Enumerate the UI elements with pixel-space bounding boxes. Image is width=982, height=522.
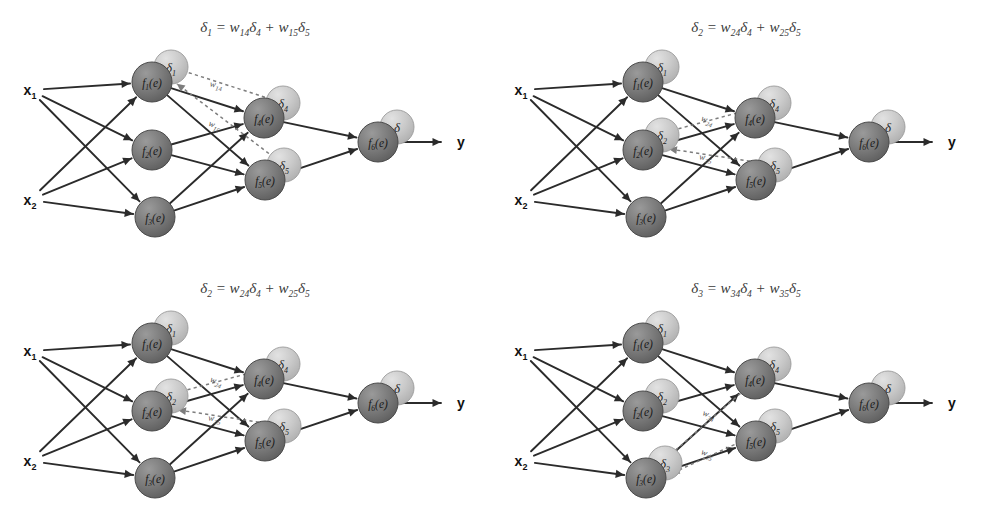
n3-to-n5-arrowhead	[235, 186, 244, 194]
x1-to-n2	[43, 357, 133, 401]
panel-2-diagram: f3(e)δ5f5(e)δ2f2(e)δ1f1(e)δ4f4(e)δf6(e)w…	[491, 0, 982, 261]
panel-top-left: f3(e)δ5f5(e)f2(e)δ1f1(e)δ4f4(e)δf6(e)w14…	[0, 0, 491, 261]
nodes-layer: f3(e)δ5f5(e)δ2f2(e)δ1f1(e)δ4f4(e)δf6(e)	[623, 50, 905, 237]
x1-to-n2	[534, 96, 624, 140]
output-to-y-arrowhead	[433, 399, 442, 407]
x1-to-n2	[43, 96, 133, 140]
n3-to-n5-arrowhead	[726, 186, 735, 194]
panel-4-diagram: δ3f3(e)δ5f5(e)δ2f2(e)δ1f1(e)δ4f4(e)δf6(e…	[491, 261, 982, 522]
x1-to-n1-arrowhead	[121, 80, 130, 88]
x2-to-n2	[534, 158, 623, 194]
x1-to-n3	[40, 100, 140, 201]
n1-to-n4-arrowhead	[234, 105, 243, 113]
panel-4-input-x1-label: x1	[515, 343, 528, 362]
n1-to-n4-arrowhead	[725, 105, 734, 113]
output-to-y-arrowhead	[924, 138, 933, 146]
x1-to-n1-arrowhead	[121, 341, 130, 349]
x2-to-n3-arrowhead	[124, 470, 133, 478]
panel-3-input-x2-label: x2	[24, 453, 37, 472]
panel-3-weight-label-2: w25	[208, 413, 223, 426]
x1-to-n1-arrowhead	[612, 80, 621, 88]
panel-3-diagram: f3(e)δ5f5(e)δ2f2(e)δ1f1(e)δ4f4(e)δf6(e)w…	[0, 261, 491, 522]
n1-to-n4-arrowhead	[725, 366, 734, 374]
panel-2-input-x2-label: x2	[515, 192, 528, 211]
x2-to-n2	[43, 419, 132, 455]
n2-to-n5	[171, 155, 243, 174]
panel-1-input-x1-label: x1	[24, 82, 37, 101]
x2-to-n3	[535, 463, 624, 475]
x1-to-n1	[535, 344, 621, 350]
n5-to-n6-arrowhead	[348, 409, 357, 417]
x1-to-n3	[531, 361, 631, 462]
n5-to-n6-arrowhead	[839, 409, 848, 417]
x1-to-n1	[44, 83, 130, 89]
n3-to-n4	[170, 133, 248, 204]
x2-to-n3	[44, 202, 133, 214]
panel-bottom-left: f3(e)δ5f5(e)δ2f2(e)δ1f1(e)δ4f4(e)δf6(e)w…	[0, 261, 491, 522]
n4-to-n6	[775, 383, 848, 398]
x2-to-n2	[534, 419, 623, 455]
n4-to-n6-arrowhead	[838, 393, 847, 401]
n4-to-n6-arrowhead	[347, 132, 356, 140]
nodes-layer: δ3f3(e)δ5f5(e)δ2f2(e)δ1f1(e)δ4f4(e)δf6(e…	[623, 311, 905, 498]
n5-to-n6-arrowhead	[839, 148, 848, 156]
panel-2-weight-label-2: w25	[699, 152, 714, 165]
panel-2-equation: δ2 = w24δ4 + w25δ5	[691, 19, 801, 38]
x2-to-n3-arrowhead	[124, 209, 133, 217]
x2-to-n3	[44, 463, 133, 475]
panel-1-weight-label-1: w14	[209, 79, 224, 93]
panel-1-output-y-label: y	[457, 134, 465, 150]
panel-4-equation: δ3 = w34δ4 + w35δ5	[691, 280, 801, 299]
n5-to-n6-arrowhead	[348, 148, 357, 156]
panel-1-equation: δ1 = w14δ4 + w15δ5	[200, 19, 310, 38]
nodes-layer: f3(e)δ5f5(e)δ2f2(e)δ1f1(e)δ4f4(e)δf6(e)	[132, 311, 414, 498]
panel-2-weight-label-1: w24	[699, 113, 716, 129]
n4-to-n6-arrowhead	[838, 132, 847, 140]
x1-to-n1	[535, 83, 621, 89]
panel-3-input-x1-label: x1	[24, 343, 37, 362]
x1-to-n3	[40, 361, 140, 462]
x2-to-n3-arrowhead	[615, 470, 624, 478]
x1-to-n1	[44, 344, 130, 350]
n4-to-n6	[775, 122, 848, 137]
panel-2-output-y-label: y	[948, 134, 956, 150]
panel-2-input-x1-label: x1	[515, 82, 528, 101]
n2-to-n5	[662, 416, 734, 435]
n1-to-n4-arrowhead	[234, 366, 243, 374]
output-to-y-arrowhead	[433, 138, 442, 146]
panel-1-diagram: f3(e)δ5f5(e)f2(e)δ1f1(e)δ4f4(e)δf6(e)w14…	[0, 0, 491, 261]
x2-to-n3-arrowhead	[615, 209, 624, 217]
n4-to-n6	[284, 122, 357, 137]
n3-to-n5-arrowhead	[235, 447, 244, 455]
x2-to-n2	[43, 158, 132, 194]
panel-3-output-y-label: y	[457, 395, 465, 411]
panel-top-right: f3(e)δ5f5(e)δ2f2(e)δ1f1(e)δ4f4(e)δf6(e)w…	[491, 0, 982, 261]
figure-canvas: f3(e)δ5f5(e)f2(e)δ1f1(e)δ4f4(e)δf6(e)w14…	[0, 0, 982, 522]
panel-4-input-x2-label: x2	[515, 453, 528, 472]
x1-to-n1-arrowhead	[612, 341, 621, 349]
x2-to-n3	[535, 202, 624, 214]
output-to-y-arrowhead	[924, 399, 933, 407]
n4-to-n6	[284, 383, 357, 398]
panel-3-equation: δ2 = w24δ4 + w25δ5	[200, 280, 310, 299]
panel-1-input-x2-label: x2	[24, 192, 37, 211]
n4-to-n6-arrowhead	[347, 393, 356, 401]
x1-to-n3	[531, 100, 631, 201]
x1-to-n2	[534, 357, 624, 401]
panel-bottom-right: δ3f3(e)δ5f5(e)δ2f2(e)δ1f1(e)δ4f4(e)δf6(e…	[491, 261, 982, 522]
panel-3-weight-label-1: w24	[208, 374, 225, 390]
panel-4-output-y-label: y	[948, 395, 956, 411]
